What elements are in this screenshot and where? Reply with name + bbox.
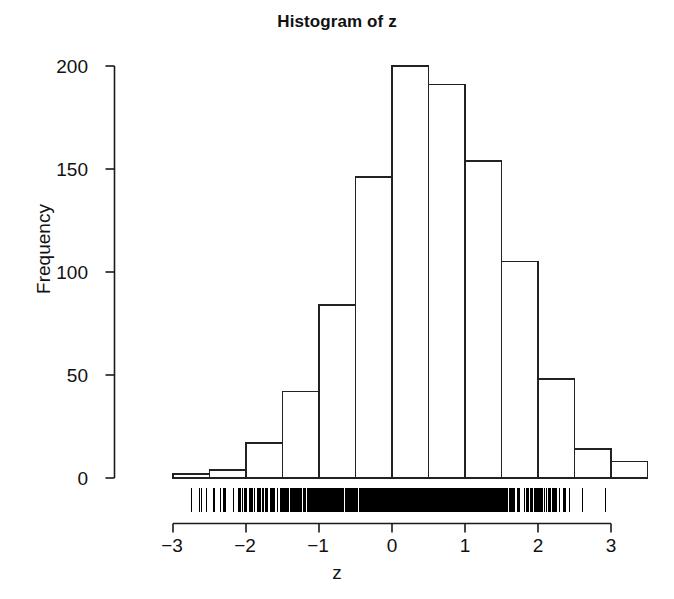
histogram-bars [173,66,648,478]
histogram-bar [356,177,393,478]
y-axis-ticks [106,66,115,478]
histogram-bar [611,462,648,478]
x-axis-ticks [173,524,611,533]
histogram-bar [429,85,466,478]
histogram-plot: Histogram of z Frequency z 200 150 100 5… [0,0,674,599]
histogram-bar [319,305,356,478]
histogram-bar [575,449,612,478]
histogram-bar [392,66,429,478]
histogram-bar [538,379,575,478]
histogram-bar [465,161,502,478]
histogram-bar [283,391,320,478]
histogram-bar [246,443,283,478]
histogram-bar [173,474,210,478]
plot-canvas [0,0,674,599]
histogram-bar [210,470,247,478]
histogram-bar [502,262,539,478]
rug-plot [191,488,606,513]
